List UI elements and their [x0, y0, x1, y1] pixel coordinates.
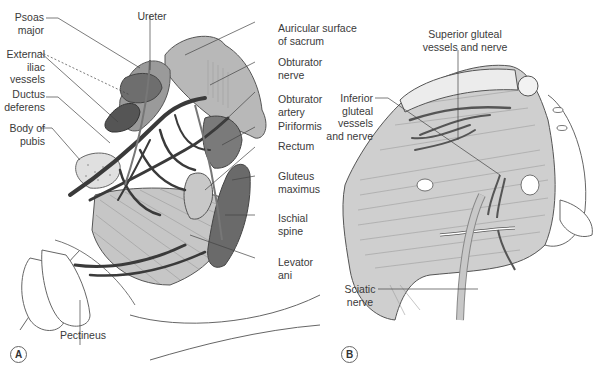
panel-label-a: A: [10, 346, 27, 363]
label-line: Obturator: [278, 93, 322, 106]
label-obturator-nerve: Obturator nerve: [278, 56, 322, 81]
label-line: Levator: [278, 256, 313, 269]
label-line: nerve: [340, 296, 380, 309]
label-line: maximus: [278, 183, 320, 196]
label-line: Auricular surface: [278, 22, 357, 35]
label-line: vessels: [323, 117, 373, 130]
label-line: Ureter: [132, 10, 172, 23]
label-line: vessels: [2, 73, 45, 86]
anatomy-figure: Psoas major External iliac vessels Ductu…: [0, 0, 607, 375]
label-line: vessels and nerve: [415, 41, 515, 54]
label-line: spine: [278, 225, 308, 238]
label-ureter: Ureter: [132, 10, 172, 23]
label-rectum: Rectum: [278, 140, 314, 153]
label-line: deferens: [2, 101, 45, 114]
label-line: artery: [278, 106, 322, 119]
label-line: ani: [278, 269, 313, 282]
label-line: Sciatic: [340, 283, 380, 296]
label-line: Body of: [2, 122, 45, 135]
label-line: nerve: [278, 69, 322, 82]
panel-label-b: B: [341, 346, 358, 363]
label-levator-ani: Levator ani: [278, 256, 313, 281]
label-line: Pectineus: [58, 329, 108, 342]
label-line: External: [2, 48, 45, 61]
label-line: iliac: [2, 61, 45, 74]
label-superior-gluteal-vessels-and-nerve: Superior gluteal vessels and nerve: [415, 28, 515, 53]
label-line: Ischial: [278, 212, 308, 225]
label-inferior-gluteal-vessels-and-nerve: Inferior gluteal vessels and nerve: [323, 92, 373, 142]
label-line: pubis: [2, 135, 45, 148]
label-auricular-surface: Auricular surface of sacrum: [278, 22, 357, 47]
label-line: Rectum: [278, 140, 314, 153]
label-piriformis: Piriformis: [278, 120, 322, 133]
label-line: Ductus: [2, 88, 45, 101]
label-sciatic-nerve: Sciatic nerve: [340, 283, 380, 308]
label-ductus-deferens: Ductus deferens: [2, 88, 45, 113]
label-body-of-pubis: Body of pubis: [2, 122, 45, 147]
label-line: Inferior: [323, 92, 373, 105]
label-line: gluteal: [323, 105, 373, 118]
label-line: major: [8, 24, 44, 37]
label-obturator-artery: Obturator artery: [278, 93, 322, 118]
label-line: Superior gluteal: [415, 28, 515, 41]
label-line: of sacrum: [278, 35, 357, 48]
label-psoas-major: Psoas major: [8, 11, 44, 36]
label-external-iliac-vessels: External iliac vessels: [2, 48, 45, 86]
label-line: Piriformis: [278, 120, 322, 133]
label-gluteus-maximus: Gluteus maximus: [278, 170, 320, 195]
label-line: Obturator: [278, 56, 322, 69]
label-ischial-spine: Ischial spine: [278, 212, 308, 237]
label-line: Psoas: [8, 11, 44, 24]
label-line: and nerve: [323, 130, 373, 143]
label-pectineus: Pectineus: [58, 329, 108, 342]
label-line: Gluteus: [278, 170, 320, 183]
